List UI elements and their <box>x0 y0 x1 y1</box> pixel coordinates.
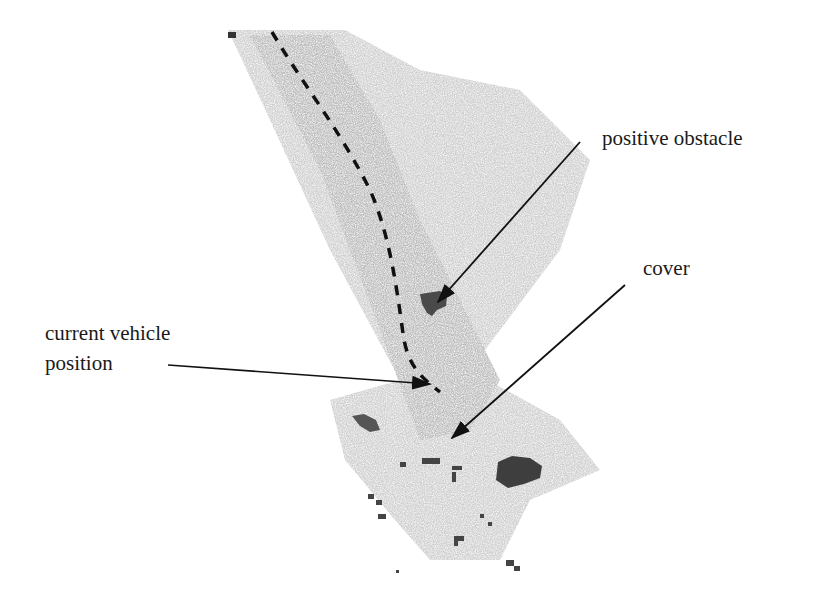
speck-mark <box>228 32 236 38</box>
figure-canvas: positive obstacle cover current vehicle … <box>0 0 837 610</box>
terrain-map <box>0 0 837 610</box>
arrow-vehicle-position <box>168 365 430 384</box>
terrain-corridor <box>228 30 600 560</box>
label-current-vehicle-line1: current vehicle <box>45 320 170 346</box>
label-current-vehicle-line2: position <box>45 350 113 376</box>
label-positive-obstacle: positive obstacle <box>602 125 743 151</box>
label-cover: cover <box>643 255 690 281</box>
